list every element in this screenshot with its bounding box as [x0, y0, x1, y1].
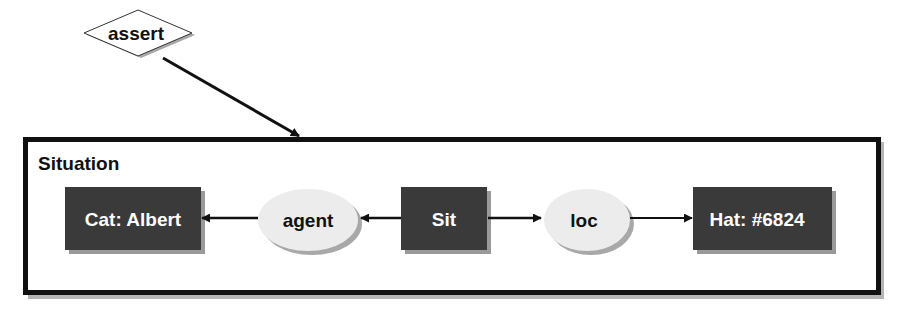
situation-label: Situation [38, 153, 119, 174]
assert-label: assert [108, 23, 165, 44]
relation-loc-label: loc [570, 210, 598, 231]
concept-sit-label: Sit [432, 209, 457, 230]
concept-hat-label: Hat: #6824 [709, 209, 804, 230]
concept-cat-albert[interactable]: Cat: Albert [65, 187, 205, 254]
diagram-canvas: Situation assert Cat: Albert agent Sit l… [0, 0, 905, 314]
relation-agent-label: agent [283, 210, 334, 231]
concept-hat[interactable]: Hat: #6824 [693, 187, 836, 254]
assert-node[interactable]: assert [84, 10, 195, 58]
concept-sit[interactable]: Sit [401, 187, 491, 254]
assert-edge [163, 58, 299, 136]
concept-cat-label: Cat: Albert [85, 209, 182, 230]
